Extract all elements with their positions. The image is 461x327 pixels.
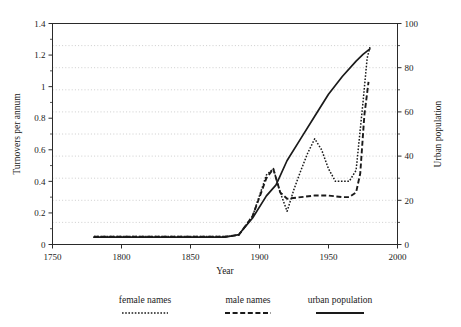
y2-tick-label: 100 [405,19,419,29]
y2-tick-label: 60 [405,107,415,117]
legend-label-male-names: male names [225,295,270,305]
y-tick-label: 1.4 [34,19,46,29]
y-tick-label: 0.4 [34,177,46,187]
left-axis-tick-labels: 00.20.40.60.811.21.4 [34,19,46,250]
y2-tick-label: 0 [405,240,410,250]
y-tick-label: 1.2 [34,50,45,60]
series-line-female-names [94,47,370,236]
chart-figure: 00.20.40.60.811.21.4 020406080100 175018… [0,0,461,327]
y2-axis-title: Urban population [433,100,443,167]
legend-label-urban-population: urban population [308,295,373,305]
x-tick-label: 1950 [320,252,339,262]
y-tick-label: 0.8 [34,113,46,123]
y-tick-label: 0.2 [34,208,45,218]
x-tick-label: 1800 [113,252,132,262]
y2-tick-label: 40 [405,151,415,161]
x-tick-label: 1750 [44,252,63,262]
data-series-group [94,47,370,237]
x-tick-label: 1900 [251,252,270,262]
y-tick-label: 0 [41,240,46,250]
y2-tick-label: 80 [405,63,415,73]
chart-legend: female namesmale namesurban population [119,295,373,313]
y2-tick-label: 20 [405,196,415,206]
legend-label-female-names: female names [119,295,172,305]
line-chart-svg: 00.20.40.60.811.21.4 020406080100 175018… [0,0,461,327]
series-line-male-names [94,82,369,237]
series-line-urban-population [94,49,370,237]
y-axis-title: Turnovers per annum [12,93,22,175]
x-axis-title: Year [216,266,234,276]
x-axis-tick-labels: 175018001850190019502000 [44,252,408,262]
x-axis-ticks [53,245,398,249]
y-tick-label: 0.6 [34,145,46,155]
right-axis-tick-labels: 020406080100 [405,19,419,250]
x-tick-label: 2000 [389,252,408,262]
left-axis-ticks [49,24,53,245]
right-axis-ticks [398,24,402,245]
x-tick-label: 1850 [182,252,201,262]
y-tick-label: 1 [41,82,46,92]
